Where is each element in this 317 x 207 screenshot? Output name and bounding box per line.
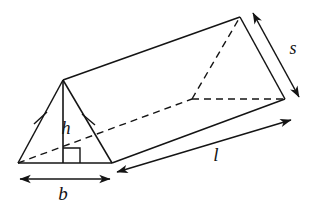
dimension-arrow-l xyxy=(117,120,291,172)
prism-solid-edges xyxy=(18,17,285,163)
label-length: l xyxy=(213,144,218,165)
right-angle-icon xyxy=(63,148,80,163)
prism-figure: h b l s xyxy=(0,0,317,207)
edge-ridge xyxy=(63,17,240,80)
edge-hidden-left-long xyxy=(18,99,192,163)
edge-bottom-long xyxy=(112,99,285,163)
dimension-arrows xyxy=(20,13,299,179)
label-slant: s xyxy=(289,38,296,58)
label-height: h xyxy=(62,118,71,138)
edge-hidden-back-left-slant xyxy=(192,17,240,99)
edge-front-left-slant xyxy=(18,80,63,163)
prism-diagram: h b l s xyxy=(0,0,317,207)
label-base: b xyxy=(58,183,68,204)
